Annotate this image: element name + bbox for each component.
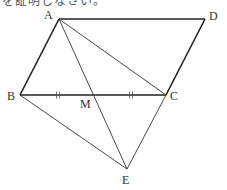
label-point-M: M — [80, 98, 91, 110]
label-point-D: D — [209, 10, 218, 22]
label-point-B: B — [7, 90, 15, 102]
segment-BE — [20, 95, 127, 169]
segment-AE — [59, 19, 127, 169]
segment-DC — [166, 19, 205, 95]
segment-AB — [20, 19, 59, 95]
geometry-figure — [0, 0, 227, 190]
segment-CE — [127, 95, 166, 169]
label-point-C: C — [170, 90, 178, 102]
label-point-E: E — [122, 174, 129, 186]
segment-AC — [59, 19, 166, 95]
label-point-A: A — [44, 9, 53, 21]
